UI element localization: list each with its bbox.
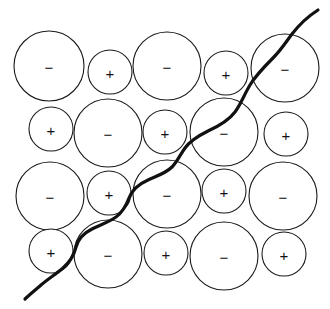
cation-sign-label-ion-r2c5: + — [282, 127, 291, 144]
anion-sign-label-ion-r3c5: − — [279, 189, 288, 206]
cation-sign-label-ion-r2c3: + — [161, 125, 170, 142]
cation-sign-label-ion-r2c1: + — [47, 122, 56, 139]
anion-sign-label-ion-r2c4: − — [220, 125, 229, 142]
lattice-canvas: −+−+−+−+−+−+−+−+−+−+ — [0, 0, 330, 309]
anion-sign-label-ion-r2c2: − — [104, 126, 113, 143]
cation-sign-label-ion-r3c2: + — [105, 186, 114, 203]
anion-sign-label-ion-r1c5: − — [281, 61, 290, 78]
ionic-lattice-figure: −+−+−+−+−+−+−+−+−+−+ — [0, 0, 330, 309]
anion-sign-label-ion-r4c2: − — [104, 247, 113, 264]
anion-sign-label-ion-r3c1: − — [46, 189, 55, 206]
cation-sign-label-ion-r4c1: + — [47, 244, 56, 261]
cation-sign-label-ion-r4c3: + — [162, 246, 171, 263]
cation-sign-label-ion-r1c2: + — [106, 65, 115, 82]
cation-sign-label-ion-r4c5: + — [280, 247, 289, 264]
anion-sign-label-ion-r1c1: − — [45, 59, 54, 76]
anion-sign-label-ion-r3c3: − — [163, 187, 172, 204]
cation-sign-label-ion-r3c4: + — [220, 184, 229, 201]
cation-sign-label-ion-r1c4: + — [222, 66, 231, 83]
anion-sign-label-ion-r4c4: − — [220, 249, 229, 266]
anion-sign-label-ion-r1c3: − — [163, 59, 172, 76]
